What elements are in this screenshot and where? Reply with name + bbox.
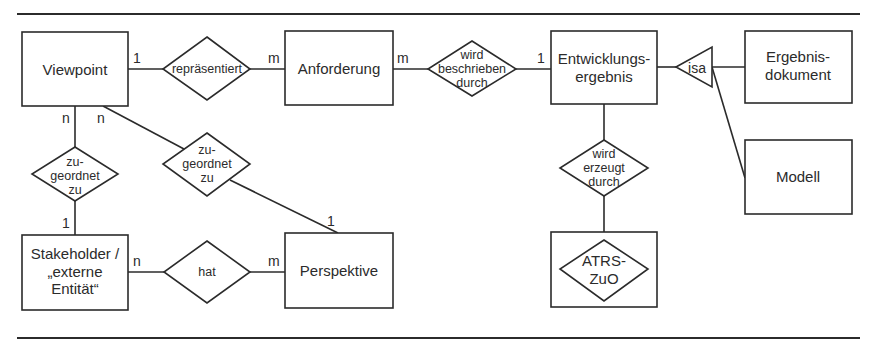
entity-label-line: Ergebnis-: [765, 48, 831, 66]
entity-label-atrs-zuo: ATRS- ZuO: [582, 252, 626, 287]
isa-label: isa: [688, 60, 706, 77]
entity-label-line: dokument: [765, 66, 831, 84]
relationship-label-repraesentiert: repräsentiert: [172, 62, 242, 77]
connector-isa-modell: [712, 67, 745, 178]
relationship-label-line: wird: [438, 48, 506, 62]
cardinality-viewpoint-zu-left: n: [62, 110, 70, 127]
entity-label-anforderung: Anforderung: [298, 60, 381, 78]
cardinality-zu-left-stakeholder: 1: [62, 215, 70, 232]
relationship-label-line: wird: [583, 147, 625, 161]
cardinality-anforderung-wbd: m: [397, 50, 409, 67]
cardinality-wbd-entwicklungsergebnis: 1: [537, 50, 545, 67]
relationship-label-zugeordnet-zu-mid: zu- geordnet zu: [182, 143, 231, 185]
entity-label-line: „externe: [31, 263, 119, 281]
entity-label-perspektive: Perspektive: [300, 262, 378, 280]
entity-label-line: Stakeholder /: [31, 245, 119, 263]
entity-label-line: Entwicklungs-: [558, 50, 651, 68]
entity-label-line: Entität“: [31, 281, 119, 299]
relationship-label-line: durch: [583, 175, 625, 189]
entity-label-entwicklungsergebnis: Entwicklungs- ergebnis: [558, 50, 651, 85]
cardinality-viewpoint-zu-mid: n: [97, 110, 105, 127]
cardinality-hat-perspektive: m: [268, 253, 280, 270]
relationship-label-line: geordnet: [182, 157, 231, 171]
entity-label-stakeholder: Stakeholder / „externe Entität“: [31, 245, 119, 298]
entity-label-modell: Modell: [776, 168, 820, 186]
relationship-label-line: erzeugt: [583, 161, 625, 175]
relationship-label-line: zu-: [182, 143, 231, 157]
connector-zu-mid-perspektive: [230, 180, 338, 233]
entity-label-line: ATRS-: [582, 252, 626, 270]
relationship-label-wird-erzeugt-durch: wird erzeugt durch: [583, 147, 625, 189]
er-diagram: Viewpoint Anforderung Entwicklungs- erge…: [0, 0, 874, 346]
relationship-label-zugeordnet-zu-left: zu- geordnet zu: [50, 155, 99, 197]
relationship-label-line: beschrieben: [438, 62, 506, 76]
entity-label-line: ergebnis: [558, 68, 651, 86]
cardinality-repraesentiert-anforderung: m: [268, 50, 280, 67]
entity-label-ergebnisdokument: Ergebnis- dokument: [765, 48, 831, 83]
cardinality-stakeholder-hat: n: [133, 253, 141, 270]
relationship-label-hat: hat: [198, 265, 215, 280]
relationship-label-line: geordnet: [50, 169, 99, 183]
relationship-label-line: zu-: [50, 155, 99, 169]
cardinality-zu-mid-perspektive: 1: [327, 213, 335, 230]
relationship-label-line: durch: [438, 76, 506, 90]
cardinality-viewpoint-repraesentiert: 1: [133, 50, 141, 67]
entity-label-viewpoint: Viewpoint: [43, 61, 108, 79]
entity-label-line: ZuO: [582, 270, 626, 288]
relationship-label-wird-beschrieben-durch: wird beschrieben durch: [438, 48, 506, 90]
connector-viewpoint-zu-mid: [103, 106, 184, 149]
relationship-label-line: zu: [182, 171, 231, 185]
relationship-label-line: zu: [50, 183, 99, 197]
